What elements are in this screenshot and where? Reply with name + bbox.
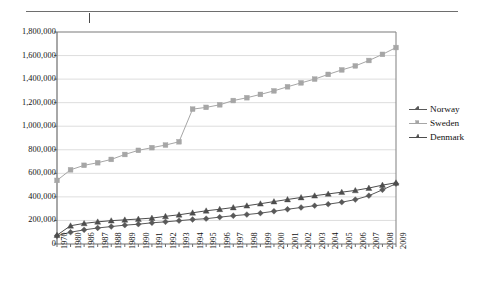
x-axis-label: 2007 — [372, 232, 381, 249]
legend-swatch-triangle-icon — [408, 131, 428, 143]
x-axis-label: 2006 — [359, 232, 368, 249]
x-axis-label: 2008 — [386, 232, 395, 249]
x-axis-label: 1995 — [209, 232, 218, 249]
legend-swatch-square-icon — [408, 117, 428, 129]
legend-marker-square-icon — [413, 118, 419, 124]
legend-marker-diamond-icon — [413, 104, 419, 110]
x-axis-label: 1970 — [60, 232, 69, 249]
x-axis-label: 2003 — [318, 232, 327, 249]
legend-label: Norway — [428, 104, 460, 114]
x-axis-label: 2000 — [277, 232, 286, 249]
x-axis-label: 2001 — [291, 232, 300, 249]
x-axis-label: 1980 — [74, 232, 83, 249]
x-axis-tick-labels: 1970198019861987198819891990199119921993… — [0, 24, 482, 284]
header-tick-mark — [89, 13, 90, 23]
x-axis-label: 1999 — [264, 232, 273, 249]
legend-swatch-diamond-icon — [408, 103, 428, 115]
legend-item-norway[interactable]: Norway — [408, 102, 482, 116]
line-chart-figure: 1,800,0001,600,0001,400,0001,200,0001,00… — [0, 24, 482, 284]
x-axis-label: 1996 — [223, 232, 232, 249]
x-axis-label: 1992 — [169, 232, 178, 249]
x-axis-label: 2009 — [399, 232, 408, 249]
legend-item-denmark[interactable]: Denmark — [408, 130, 482, 144]
x-axis-label: 2004 — [331, 232, 340, 249]
data-point-marker — [415, 106, 419, 110]
legend-marker-triangle-icon — [413, 132, 419, 138]
x-axis-label: 1990 — [142, 232, 151, 249]
x-axis-label: 1987 — [101, 232, 110, 249]
header-divider — [26, 11, 458, 12]
x-axis-label: 1988 — [114, 232, 123, 249]
data-point-marker — [415, 134, 419, 138]
legend-item-sweden[interactable]: Sweden — [408, 116, 482, 130]
x-axis-label: 2002 — [304, 232, 313, 249]
legend-label: Denmark — [428, 132, 464, 142]
x-axis-label: 1993 — [182, 232, 191, 249]
x-axis-label: 1994 — [196, 232, 205, 249]
x-axis-label: 1989 — [128, 232, 137, 249]
data-point-marker — [416, 121, 419, 124]
x-axis-label: 2005 — [345, 232, 354, 249]
x-axis-label: 1986 — [87, 232, 96, 249]
x-axis-label: 1997 — [236, 232, 245, 249]
chart-legend: NorwaySwedenDenmark — [408, 102, 482, 144]
chart-page: 1,800,0001,600,0001,400,0001,200,0001,00… — [0, 0, 482, 284]
x-axis-label: 1998 — [250, 232, 259, 249]
legend-label: Sweden — [428, 118, 459, 128]
x-axis-label: 1991 — [155, 232, 164, 249]
